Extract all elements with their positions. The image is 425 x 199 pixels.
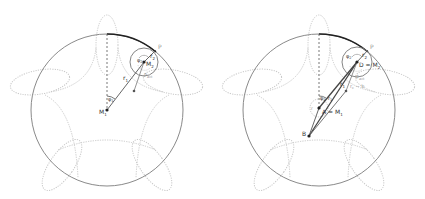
label-r-small: r <box>311 106 313 111</box>
phi2-angle-arc <box>352 54 362 57</box>
label-phi1: φ1 <box>320 95 326 102</box>
dotted-trochoid-curve <box>8 15 204 196</box>
diagram-stage: P r2 φ2 M2 Pact r1 φ1 M1 <box>0 0 425 199</box>
label-r1-upper: r1 <box>328 95 332 102</box>
label-M2: M2 <box>146 60 154 69</box>
point-P-act <box>133 90 136 93</box>
phi2-angle-arc <box>139 55 149 58</box>
traced-arc <box>107 34 156 52</box>
label-P-act: Pact <box>144 72 153 79</box>
traced-arc <box>319 34 368 52</box>
label-phi2: φ2 <box>137 57 143 64</box>
main-circle <box>243 34 395 186</box>
point-A <box>317 106 320 109</box>
label-P: P <box>370 43 374 50</box>
label-A-eq-M1: A = M1 <box>322 108 343 117</box>
point-P-act <box>345 90 348 93</box>
left-panel: P r2 φ2 M2 Pact r1 φ1 M1 <box>8 15 204 196</box>
line-B-D <box>309 62 357 136</box>
dotted-trochoid-curve <box>220 15 416 196</box>
point-B <box>307 134 310 137</box>
label-B: B <box>302 130 306 137</box>
label-P: P <box>158 43 162 50</box>
label-r1: r1 <box>123 74 128 83</box>
right-panel: P r2 φ2 D = M2 Pact r1 rc − b φ1 r1 r A … <box>220 15 416 196</box>
two-panel-epicycloid-diagram: P r2 φ2 M2 Pact r1 φ1 M1 <box>0 0 425 199</box>
label-phi2: φ2 <box>346 53 352 60</box>
label-D-eq-M2: D = M2 <box>359 61 381 70</box>
label-r2: r2 <box>362 51 367 60</box>
p-act-line <box>134 62 144 91</box>
